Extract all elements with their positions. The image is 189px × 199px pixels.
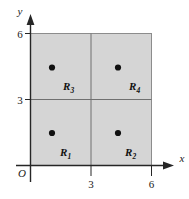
region-label-r1-subscript: 1 [68, 152, 72, 161]
y-tick-label-6: 6 [17, 28, 23, 40]
region-label-r2-subscript: 2 [132, 152, 137, 161]
region-label-r1-letter: R [59, 146, 67, 158]
y-axis-label: y [17, 5, 23, 17]
x-tick-label-3: 3 [88, 178, 94, 190]
x-axis-arrowhead [163, 162, 174, 170]
sample-point-r3 [49, 64, 55, 70]
origin-label: O [18, 167, 26, 179]
region-label-r4-letter: R [128, 80, 136, 92]
region-label-r2-letter: R [124, 146, 132, 158]
coordinate-plane-figure: y x O 6 3 3 6 R 3 R 4 R 1 R [0, 0, 189, 199]
region-label-r3-letter: R [62, 80, 70, 92]
sample-point-r1 [49, 130, 55, 136]
region-label-r3-subscript: 3 [70, 86, 75, 95]
sample-point-r4 [115, 64, 121, 70]
x-axis-label: x [179, 152, 185, 164]
sample-point-r2 [115, 130, 121, 136]
y-tick-label-3: 3 [17, 94, 23, 106]
y-axis-arrowhead [27, 14, 35, 25]
region-label-r4-subscript: 4 [136, 86, 141, 95]
x-tick-label-6: 6 [149, 178, 155, 190]
figure-svg: y x O 6 3 3 6 R 3 R 4 R 1 R [0, 0, 189, 199]
